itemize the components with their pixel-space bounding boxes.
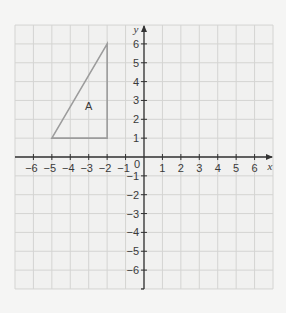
y-tick-label: 6 — [133, 38, 139, 50]
y-tick-label: 4 — [133, 76, 139, 88]
y-tick-label: −2 — [126, 189, 139, 201]
x-tick-label: −6 — [25, 162, 38, 174]
y-tick-label: −1 — [126, 170, 139, 182]
y-tick-label: −6 — [126, 264, 139, 276]
origin-label: 0 — [134, 158, 140, 170]
y-tick-label: −3 — [126, 208, 139, 220]
x-tick-label: −5 — [44, 162, 57, 174]
coordinate-plane: A −6−5−4−3−2−1123456−6−5−4−3−2−11234560x… — [0, 0, 286, 313]
x-axis-label: x — [267, 160, 273, 172]
y-tick-label: −5 — [126, 245, 139, 257]
x-tick-label: −4 — [62, 162, 75, 174]
x-tick-label: 3 — [196, 162, 202, 174]
y-tick-label: 1 — [133, 132, 139, 144]
y-axis-label: y — [133, 23, 139, 35]
x-tick-label: 5 — [233, 162, 239, 174]
shape-label-a: A — [85, 100, 93, 112]
x-tick-label: 6 — [252, 162, 258, 174]
x-tick-label: 2 — [178, 162, 184, 174]
y-tick-label: 5 — [133, 57, 139, 69]
coordinate-grid-diagram: A −6−5−4−3−2−1123456−6−5−4−3−2−11234560x… — [0, 0, 286, 313]
y-tick-label: 3 — [133, 94, 139, 106]
x-tick-label: −2 — [99, 162, 112, 174]
y-tick-label: 2 — [133, 113, 139, 125]
x-tick-label: 4 — [215, 162, 221, 174]
y-tick-label: −4 — [126, 226, 139, 238]
x-tick-label: 1 — [159, 162, 165, 174]
x-tick-label: −3 — [80, 162, 93, 174]
